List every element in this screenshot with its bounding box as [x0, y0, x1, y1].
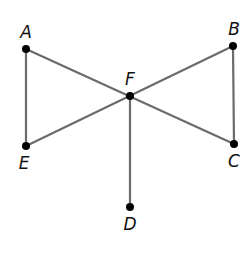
point-c	[230, 140, 238, 148]
label-e: E	[19, 153, 30, 173]
label-b: B	[228, 19, 240, 39]
point-f	[126, 92, 134, 100]
point-a	[22, 45, 30, 53]
label-c: C	[228, 151, 240, 171]
segment-bc	[233, 46, 234, 144]
geometry-diagram: ABFECD	[0, 0, 252, 255]
label-f: F	[125, 69, 135, 89]
point-b	[229, 42, 237, 50]
label-a: A	[19, 22, 32, 42]
point-d	[126, 203, 134, 211]
label-d: D	[123, 214, 136, 234]
point-e	[22, 142, 30, 150]
